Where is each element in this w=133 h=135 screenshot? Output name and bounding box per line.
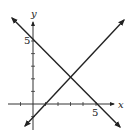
- x-tick-label-5: 5: [92, 107, 98, 118]
- line-chart: y x 5 5: [0, 0, 133, 135]
- line-increasing: [25, 20, 124, 126]
- y-tick-label-5: 5: [24, 35, 30, 46]
- x-axis-label: x: [118, 99, 124, 110]
- y-axis-label: y: [30, 8, 37, 19]
